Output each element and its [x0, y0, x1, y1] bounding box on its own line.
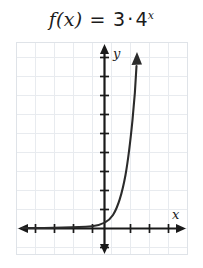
function-variable: x: [64, 8, 75, 30]
paren-close: ): [75, 8, 83, 30]
function-name: f: [49, 8, 56, 30]
exponent-value: x: [148, 9, 154, 22]
multiplication-dot-icon: ·: [125, 8, 135, 30]
paren-open: (: [56, 8, 64, 30]
base-value: 4: [135, 8, 147, 30]
x-axis-label: x: [172, 207, 180, 222]
equals-sign: =: [89, 8, 107, 30]
exponential-graph-figure: y x: [16, 42, 188, 255]
plot-border: [17, 43, 188, 255]
equation-title: f(x) = 3·4x: [0, 7, 203, 31]
coefficient-value: 3: [113, 8, 125, 30]
y-axis-label: y: [112, 46, 121, 61]
coordinate-plane: y x: [16, 42, 188, 255]
